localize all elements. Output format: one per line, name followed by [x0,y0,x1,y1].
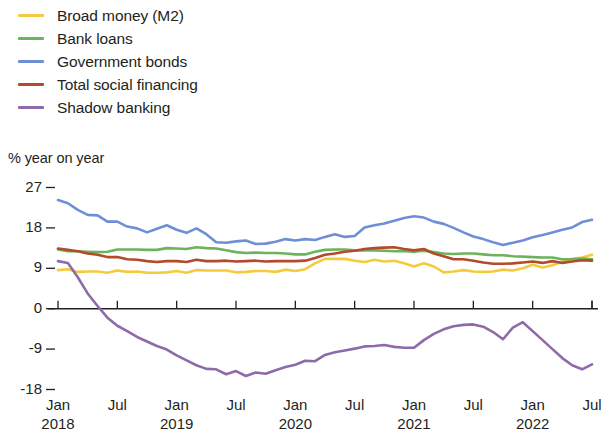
y-axis-tick-label: 0 [4,299,42,316]
x-axis-tick-year: 2020 [264,414,326,433]
x-axis-tick-label: Jan2022 [502,396,564,433]
x-axis-tick-label: Jan2021 [383,396,445,433]
series-line-government-bonds [58,200,592,245]
x-axis-tick-label: Jul [86,396,148,414]
y-axis-tick-label: 27 [4,178,42,195]
x-axis-tick-month: Jul [205,396,267,414]
x-axis-tick-year: 2019 [146,414,208,433]
chart-plot-area [0,0,610,437]
x-axis-tick-month: Jul [324,396,386,414]
x-axis-tick-month: Jul [561,396,610,414]
x-axis-tick-label: Jan2018 [27,396,89,433]
x-axis-tick-label: Jan2019 [146,396,208,433]
x-axis-tick-label: Jan2020 [264,396,326,433]
x-axis-tick-label: Jul [205,396,267,414]
x-axis-tick-label: Jul [442,396,504,414]
y-axis-tick-label: -18 [4,380,42,397]
x-axis-tick-year: 2021 [383,414,445,433]
x-axis-tick-month: Jan [264,396,326,414]
x-axis-tick-year: 2022 [502,414,564,433]
series-line-shadow-banking [58,261,592,376]
x-axis-tick-month: Jul [86,396,148,414]
y-axis-tick-label: 9 [4,258,42,275]
x-axis-tick-month: Jan [146,396,208,414]
series-line-bank-loans [58,247,592,259]
x-axis-tick-month: Jan [502,396,564,414]
y-axis-tick-label: -9 [4,339,42,356]
x-axis-tick-year: 2018 [27,414,89,433]
x-axis-tick-month: Jan [383,396,445,414]
x-axis-tick-month: Jan [27,396,89,414]
y-axis-tick-label: 18 [4,218,42,235]
x-axis-tick-label: Jul [561,396,610,414]
x-axis-tick-month: Jul [442,396,504,414]
x-axis-tick-label: Jul [324,396,386,414]
chart-container: Broad money (M2) Bank loans Government b… [0,0,610,437]
